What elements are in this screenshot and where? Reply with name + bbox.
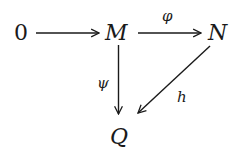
label-h: h xyxy=(177,90,187,105)
node-m: M xyxy=(105,22,128,44)
label-psi: ψ xyxy=(97,76,109,91)
node-q: Q xyxy=(110,126,128,148)
label-phi: φ xyxy=(162,9,173,24)
node-zero: 0 xyxy=(14,22,28,44)
node-n: N xyxy=(208,22,227,44)
arrow-h-n-to-q xyxy=(138,46,210,113)
